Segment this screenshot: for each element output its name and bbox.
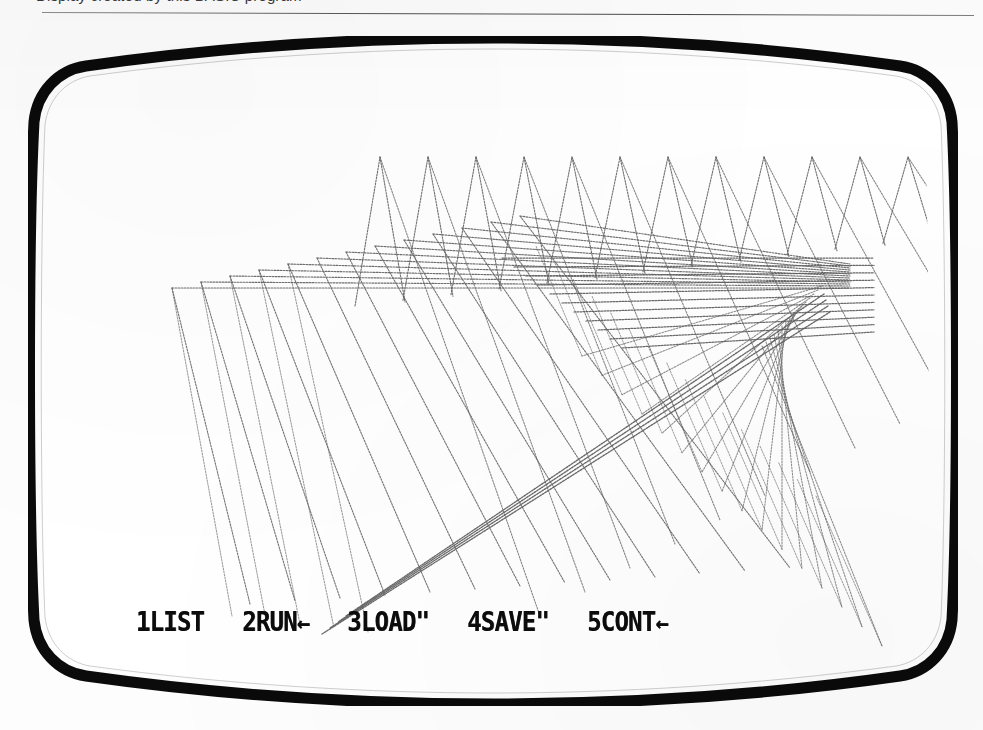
return-arrow-icon: ← [297,609,309,636]
function-key-2-run[interactable]: 2RUN← [242,607,309,637]
crt-screen [46,56,940,686]
function-key-1-list[interactable]: 1LIST [136,607,204,637]
plot-line-group [172,157,940,646]
horizontal-rule [42,12,974,16]
figure-caption: Display created by this BASIC program [36,0,302,4]
function-key-row: 1LIST 2RUN← 3LOAD" 4SAVE" 5CONT← [46,600,940,644]
return-arrow-icon: ← [655,609,667,636]
function-key-4-save[interactable]: 4SAVE" [467,607,549,637]
scanned-page: Display created by this BASIC program 1L… [0,0,983,730]
moire-line-plot [46,56,940,686]
function-key-5-cont[interactable]: 5CONT← [587,607,668,637]
function-key-3-load[interactable]: 3LOAD" [347,607,429,637]
